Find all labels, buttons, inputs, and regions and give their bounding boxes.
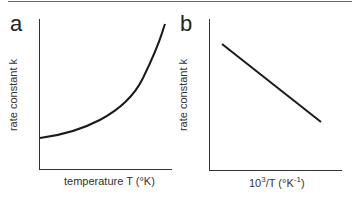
panel-b-line — [222, 44, 321, 122]
panel-a-curve — [40, 24, 165, 138]
panel-a-axes — [39, 19, 172, 170]
panel-b-axes — [209, 19, 342, 171]
chart-canvas — [0, 0, 352, 197]
